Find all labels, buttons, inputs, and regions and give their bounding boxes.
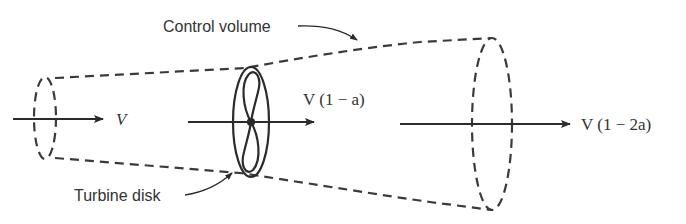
flow-arrows [13,119,570,124]
blade-upper [243,72,259,122]
disk-velocity-label: V (1 − a) [303,90,365,109]
wake-velocity-label: V (1 − 2a) [581,115,651,134]
upstream-velocity-label: V [116,110,129,129]
control-volume-leader [298,26,357,40]
turbine-disk-leader [185,173,232,195]
upper-streamline [55,38,492,78]
stream-tube-diagram: Control volume Turbine disk V V (1 − a) … [0,0,686,224]
control-volume-label: Control volume [163,18,271,35]
turbine-disk-label: Turbine disk [74,187,162,204]
blade-lower [243,122,259,172]
